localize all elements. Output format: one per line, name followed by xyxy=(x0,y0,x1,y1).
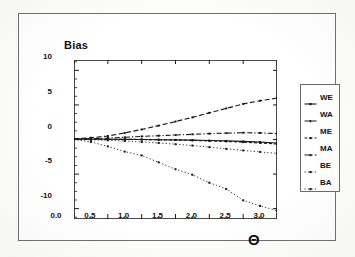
series-ba xyxy=(74,139,277,212)
x-tick-label: 3.0 xyxy=(246,211,272,220)
legend-label: BE xyxy=(320,162,331,170)
y-tick-label: 0 xyxy=(30,122,52,131)
legend-item-be[interactable]: BE xyxy=(301,157,339,174)
legend-line-sample-icon xyxy=(304,179,317,187)
x-tick-label: 2.0 xyxy=(178,211,204,220)
legend: WEWAMEMABEBA xyxy=(300,84,340,192)
y-tick-label: -5 xyxy=(30,156,52,165)
x-tick-label: 1.0 xyxy=(111,211,137,220)
legend-item-we[interactable]: WE xyxy=(301,89,339,106)
y-axis-label: Bias xyxy=(64,39,88,51)
legend-line-sample-icon xyxy=(304,162,317,170)
y-tick-label: 5 xyxy=(30,87,52,96)
x-tick-label: 1.5 xyxy=(145,211,171,220)
legend-line-sample-icon xyxy=(304,145,317,153)
plot-lines-svg xyxy=(74,60,277,219)
legend-item-ma[interactable]: MA xyxy=(301,140,339,157)
legend-label: WE xyxy=(320,94,333,102)
x-tick-label: 0.5 xyxy=(77,211,103,220)
legend-item-me[interactable]: ME xyxy=(301,123,339,140)
y-tick-label: -10 xyxy=(30,191,52,200)
legend-item-wa[interactable]: WA xyxy=(301,106,339,123)
x-axis-label: Θ xyxy=(248,231,260,248)
x-tick-label: 2.5 xyxy=(212,211,238,220)
series-wa xyxy=(74,97,277,140)
figure-canvas: Bias Θ 1050-5-10 0.00.51.01.52.02.53.0 W… xyxy=(0,0,355,257)
legend-line-sample-icon xyxy=(304,111,317,119)
legend-item-ba[interactable]: BA xyxy=(301,174,339,191)
legend-label: MA xyxy=(320,145,332,153)
legend-line-sample-icon xyxy=(304,94,317,102)
legend-line-sample-icon xyxy=(304,128,317,136)
legend-label: ME xyxy=(320,128,332,136)
figure-outer-border: Bias Θ 1050-5-10 0.00.51.01.52.02.53.0 W… xyxy=(18,13,336,241)
legend-label: WA xyxy=(320,111,333,119)
x-tick-label: 0.0 xyxy=(43,211,69,220)
y-tick-label: 10 xyxy=(30,52,52,61)
legend-label: BA xyxy=(320,179,332,187)
plot-area xyxy=(74,60,277,219)
